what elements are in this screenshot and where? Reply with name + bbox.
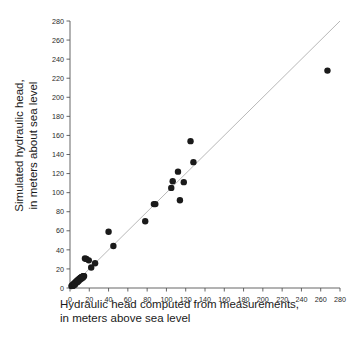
- y-axis: 020406080100120140160180200220240260280: [52, 17, 70, 293]
- x-axis-title-line-1: Hydraulic head computed from measurement…: [60, 297, 350, 311]
- y-tick-label: 40: [56, 246, 64, 255]
- data-point: [181, 179, 187, 185]
- data-point: [142, 218, 148, 224]
- y-tick-label: 180: [52, 112, 64, 121]
- data-point: [105, 229, 111, 235]
- x-axis-title: Hydraulic head computed from measurement…: [60, 297, 350, 325]
- data-point: [80, 274, 86, 280]
- data-point: [177, 197, 183, 203]
- y-axis-ticks: [67, 21, 71, 288]
- y-tick-label: 240: [52, 55, 64, 64]
- y-axis-title: Simulated hydraulic head, in meters abou…: [13, 79, 40, 211]
- reference-line-group: [70, 21, 340, 288]
- data-point: [187, 138, 193, 144]
- data-point: [152, 201, 158, 207]
- data-point: [169, 178, 175, 184]
- y-axis-title-line-1: Simulated hydraulic head,: [13, 79, 27, 211]
- one-to-one-reference-line: [70, 21, 340, 288]
- data-point: [324, 67, 330, 73]
- x-axis-ticks: [70, 288, 340, 292]
- data-point: [92, 260, 98, 266]
- data-point: [110, 243, 116, 249]
- y-tick-label: 0: [60, 284, 64, 293]
- y-tick-label: 140: [52, 150, 64, 159]
- y-tick-label: 200: [52, 93, 64, 102]
- y-tick-label: 20: [56, 265, 64, 274]
- data-point-series: [68, 67, 330, 289]
- y-tick-label: 220: [52, 74, 64, 83]
- y-tick-label: 280: [52, 17, 64, 26]
- y-tick-label: 260: [52, 36, 64, 45]
- y-axis-title-line-2: in meters about sea level: [26, 79, 40, 211]
- y-tick-label: 80: [56, 207, 64, 216]
- data-point: [175, 168, 181, 174]
- y-tick-label: 160: [52, 131, 64, 140]
- data-point: [86, 257, 92, 263]
- scatter-plot-figure: 020406080100120140160180200220240260280 …: [0, 0, 352, 339]
- y-axis-title-wrapper: Simulated hydraulic head, in meters abou…: [6, 0, 46, 290]
- data-point: [190, 159, 196, 165]
- x-axis-title-line-2: in meters above sea level: [60, 311, 350, 325]
- y-tick-label: 60: [56, 226, 64, 235]
- data-point: [168, 185, 174, 191]
- y-tick-label: 100: [52, 188, 64, 197]
- data-point: [75, 279, 81, 285]
- plot-canvas: 020406080100120140160180200220240260280 …: [0, 0, 352, 339]
- y-tick-label: 120: [52, 169, 64, 178]
- y-axis-tick-labels: 020406080100120140160180200220240260280: [52, 17, 64, 293]
